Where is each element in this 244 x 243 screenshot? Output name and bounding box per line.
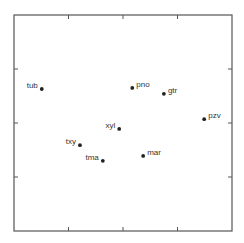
scatter-chart: tubpnogtrpzvxyltxytmamar [0, 0, 244, 243]
point-label-tub: tub [27, 81, 39, 90]
point-txy [78, 143, 82, 147]
point-tub [40, 87, 44, 91]
point-xyl [117, 127, 121, 131]
axis-ticks [14, 15, 232, 231]
point-pno [130, 86, 134, 90]
point-label-pzv: pzv [208, 111, 220, 120]
point-label-txy: txy [66, 137, 76, 146]
point-mar [141, 154, 145, 158]
point-gtr [162, 92, 166, 96]
point-label-gtr: gtr [168, 86, 178, 95]
point-label-xyl: xyl [105, 121, 115, 130]
point-label-pno: pno [136, 80, 150, 89]
point-tma [101, 159, 105, 163]
point-labels: tubpnogtrpzvxyltxytmamar [27, 80, 221, 162]
point-label-mar: mar [147, 148, 161, 157]
plot-frame [14, 15, 232, 231]
point-label-tma: tma [85, 153, 99, 162]
point-pzv [202, 117, 206, 121]
data-points [40, 86, 206, 163]
